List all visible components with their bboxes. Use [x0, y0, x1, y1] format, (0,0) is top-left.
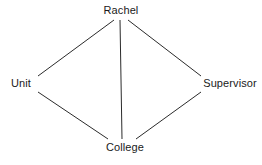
edge-rachel-college	[120, 20, 122, 139]
node-label-rachel: Rachel	[99, 4, 143, 16]
node-label-unit: Unit	[6, 77, 36, 89]
edge-unit-college	[38, 92, 108, 139]
node-label-supervisor: Supervisor	[201, 77, 259, 89]
edge-rachel-unit	[38, 20, 114, 76]
edge-supervisor-college	[136, 92, 201, 139]
node-label-college: College	[102, 141, 148, 153]
edge-rachel-supervisor	[128, 20, 201, 76]
diagram-canvas: Rachel Unit Supervisor College	[0, 0, 262, 165]
